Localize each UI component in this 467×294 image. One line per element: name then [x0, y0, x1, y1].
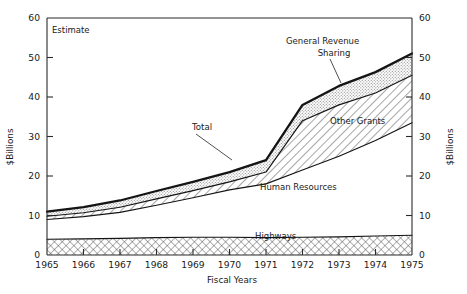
x-tick-label: 1969: [181, 259, 205, 270]
annotation-general-revenue-sharing-line1: General Revenue: [286, 36, 359, 46]
x-tick-label: 1975: [400, 259, 424, 270]
x-axis-title: Fiscal Years: [207, 275, 258, 285]
chart-figure: 0102030405060 0102030405060 196519661967…: [0, 0, 467, 294]
y-tick-label-left: 30: [28, 131, 40, 142]
annotation-general-revenue-sharing-line2: Sharing: [318, 48, 351, 58]
y-tick-label-left: 10: [28, 210, 40, 221]
x-tick-label: 1974: [364, 259, 388, 270]
annotation-total: Total: [191, 122, 212, 132]
y-tick-label-left: 50: [28, 52, 40, 63]
y-tick-label-left: 20: [28, 170, 40, 181]
x-tick-label: 1970: [218, 259, 242, 270]
annotation-highways: Highways: [255, 231, 297, 241]
y-tick-label-right: 10: [419, 210, 431, 221]
y-axis-tick-labels-left: 0102030405060: [28, 12, 40, 260]
x-axis-tick-labels: 1965196619671968196919701971197219731974…: [35, 259, 424, 270]
x-tick-label: 1973: [327, 259, 351, 270]
series-bands: [47, 54, 412, 255]
stacked-area-chart: 0102030405060 0102030405060 196519661967…: [0, 0, 467, 294]
y-axis-title-left: $Billions: [5, 128, 15, 165]
y-tick-label-right: 60: [419, 12, 431, 23]
x-tick-label: 1965: [35, 259, 59, 270]
y-tick-label-left: 60: [28, 12, 40, 23]
annotation-estimate: Estimate: [52, 25, 90, 35]
y-tick-label-right: 30: [419, 131, 431, 142]
x-tick-label: 1971: [254, 259, 277, 270]
annotation-other-grants: Other Grants: [330, 116, 386, 126]
leader-total: [196, 134, 232, 160]
y-tick-label-right: 50: [419, 52, 431, 63]
x-tick-label: 1966: [72, 259, 96, 270]
x-tick-label: 1972: [291, 259, 314, 270]
y-tick-label-right: 20: [419, 170, 431, 181]
x-tick-label: 1967: [108, 259, 132, 270]
y-tick-label-right: 40: [419, 91, 431, 102]
y-tick-label-left: 40: [28, 91, 40, 102]
y-axis-title-right: $Billions: [445, 128, 455, 165]
annotation-human-resources: Human Resources: [260, 182, 337, 192]
x-tick-label: 1968: [145, 259, 169, 270]
leader-general-revenue-sharing: [330, 59, 341, 83]
y-axis-ticks-left: [47, 58, 53, 216]
y-axis-tick-labels-right: 0102030405060: [419, 12, 431, 260]
